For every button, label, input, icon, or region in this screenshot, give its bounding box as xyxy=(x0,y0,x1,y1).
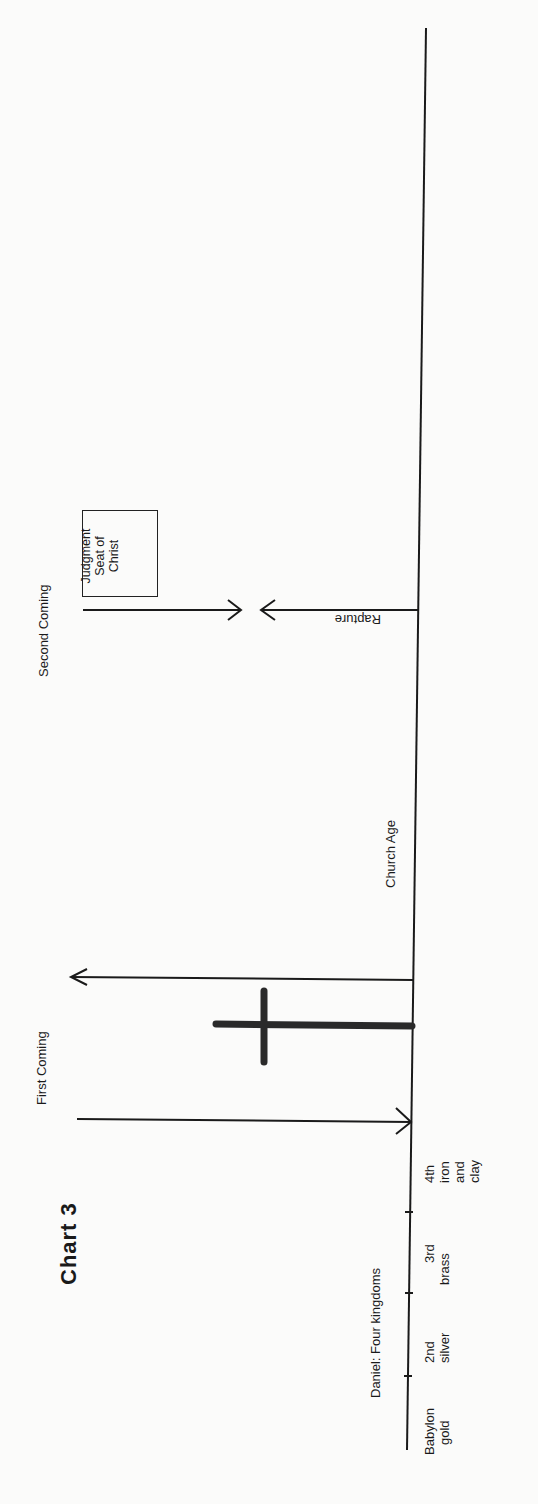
cross-icon xyxy=(216,991,412,1062)
ascension-arrow xyxy=(71,969,413,985)
kingdom-name: Babylon xyxy=(422,1408,437,1455)
kingdom-name: 3rd xyxy=(422,1244,437,1285)
judgment-line: Judgment xyxy=(79,516,93,596)
kingdom-name: 4th xyxy=(422,1160,437,1183)
rapture-label: Rapture xyxy=(335,612,381,627)
judgment-line: Seat of xyxy=(93,516,107,596)
kingdom-metal: and xyxy=(452,1160,467,1183)
kingdom-metal: silver xyxy=(437,1333,452,1363)
kingdom-name: 2nd xyxy=(422,1333,437,1363)
timeline-axis xyxy=(407,28,426,1450)
kingdom-2nd: 2nd silver xyxy=(422,1333,452,1363)
kingdom-3rd: 3rd brass xyxy=(422,1244,452,1285)
kingdom-babylon: Babylon gold xyxy=(422,1408,452,1455)
kingdom-metal: iron xyxy=(437,1160,452,1183)
second-coming-label: Second Coming xyxy=(36,585,51,678)
second-coming-arrow xyxy=(83,600,241,620)
first-coming-arrow xyxy=(77,1108,411,1134)
daniel-four-kingdoms-label: Daniel: Four kingdoms xyxy=(368,1268,383,1398)
first-coming-label: First Coming xyxy=(34,1031,49,1105)
kingdom-metal: brass xyxy=(437,1244,452,1285)
church-age-label: Church Age xyxy=(383,820,398,888)
kingdom-metal: gold xyxy=(437,1408,452,1455)
judgment-seat-text: Judgment Seat of Christ xyxy=(79,516,121,596)
judgment-line: Christ xyxy=(107,516,121,596)
chart-title: Chart 3 xyxy=(56,1202,82,1285)
kingdom-4th: 4th iron and clay xyxy=(422,1160,482,1183)
kingdom-metal: clay xyxy=(467,1160,482,1183)
judgment-seat-box: Judgment Seat of Christ xyxy=(82,510,158,597)
